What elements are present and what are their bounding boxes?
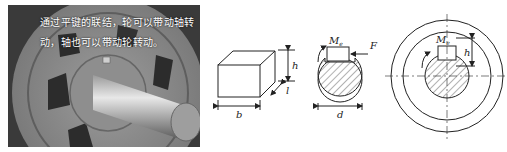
hub-section-diagram bbox=[385, 14, 507, 140]
key-width-label: b bbox=[236, 109, 242, 120]
key-length-label: l bbox=[286, 85, 289, 96]
shaft-moment-label: Me bbox=[328, 35, 343, 47]
key-height-label: h bbox=[292, 60, 298, 71]
key-connection-photo: 通过平键的联结，轮可以带动轴转 动，轴也可以带动轮转动。 bbox=[8, 5, 200, 147]
caption-line-1: 通过平键的联结，轮可以带动轴转 bbox=[40, 13, 200, 33]
shaft-section-diagram bbox=[318, 46, 368, 110]
photo-caption: 通过平键的联结，轮可以带动轴转 动，轴也可以带动轮转动。 bbox=[40, 13, 200, 53]
hub-height-label: h bbox=[464, 47, 470, 58]
diagrams-canvas: h l b Me F d Me bbox=[200, 0, 507, 152]
shaft-force-label: F bbox=[369, 40, 378, 51]
caption-line-2: 动，轴也可以带动轮转动。 bbox=[40, 33, 200, 53]
hub-moment-label: Me bbox=[435, 34, 450, 46]
shaft-diameter-label: d bbox=[337, 109, 343, 120]
flat-key-diagram bbox=[218, 50, 295, 110]
technical-diagrams: h l b Me F d Me bbox=[200, 0, 507, 152]
